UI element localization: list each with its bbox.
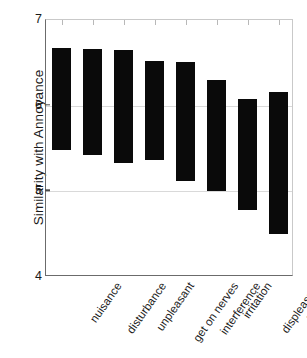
bar bbox=[207, 80, 226, 191]
y-tick-mark bbox=[45, 190, 50, 191]
x-tick-label: displeasure bbox=[279, 280, 307, 335]
x-tick-mark bbox=[124, 20, 125, 25]
bar bbox=[176, 62, 195, 181]
x-tick-mark bbox=[155, 20, 156, 25]
x-tick-label: nuisance bbox=[87, 280, 123, 325]
plot-area bbox=[45, 19, 293, 276]
chart-container: Similarity with Annoyance 4567 nuisanced… bbox=[0, 0, 307, 358]
bar bbox=[145, 61, 164, 160]
x-tick-mark bbox=[248, 20, 249, 25]
y-tick-label: 7 bbox=[10, 12, 42, 26]
y-axis-tick-labels: 4567 bbox=[6, 0, 42, 358]
x-tick-mark bbox=[186, 20, 187, 25]
bar bbox=[114, 50, 133, 163]
x-tick-mark bbox=[217, 20, 218, 25]
y-tick-label: 4 bbox=[10, 269, 42, 283]
x-tick-mark bbox=[93, 20, 94, 25]
bar bbox=[269, 92, 288, 234]
y-tick-label: 5 bbox=[10, 183, 42, 197]
bar bbox=[52, 48, 71, 150]
bar bbox=[83, 49, 102, 155]
bar bbox=[238, 99, 257, 210]
x-tick-mark bbox=[62, 20, 63, 25]
y-tick-label: 6 bbox=[10, 98, 42, 112]
x-tick-mark bbox=[279, 20, 280, 25]
y-tick-mark bbox=[45, 104, 50, 105]
